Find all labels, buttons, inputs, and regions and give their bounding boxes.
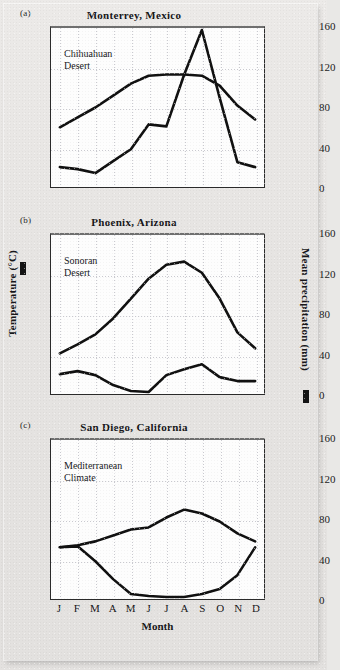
month-label: J	[146, 602, 150, 614]
annotation-c: Mediterranean Climate	[64, 460, 122, 484]
temperature-line-c	[60, 510, 255, 548]
panel-phoenix: (b) Phoenix, Arizona Sonoran Desert 0102…	[0, 215, 327, 420]
y-tick-label-right: 120	[319, 268, 340, 280]
y-tick-label-right: 0	[319, 389, 340, 401]
temperature-legend-marker	[20, 262, 26, 275]
y-tick-label-right: 160	[319, 20, 340, 32]
plot-area-san-diego: Mediterranean Climate 010203040 04080120…	[50, 438, 265, 600]
y-tick-label-right: 120	[319, 473, 340, 485]
panel-title-c: San Diego, California	[0, 421, 268, 433]
month-label: O	[216, 602, 224, 614]
y-tick-label-right: 160	[319, 227, 340, 239]
month-label: A	[109, 602, 117, 614]
month-label: S	[199, 602, 205, 614]
y-tick-label-right: 120	[319, 61, 340, 73]
y-tick-label-right: 40	[319, 142, 340, 154]
y-tick-label-right: 160	[319, 432, 340, 444]
y-tick-label-right: 40	[319, 554, 340, 566]
y-axis-label-temperature: Temperature (°C)	[6, 250, 18, 337]
month-tick-labels: JFMAMJJASOND	[50, 602, 265, 616]
month-label: J	[57, 602, 61, 614]
annotation-a: Chihuahuan Desert	[64, 48, 112, 72]
y-tick-label-right: 80	[319, 101, 340, 113]
y-tick-label-right: 80	[319, 513, 340, 525]
precipitation-line-c	[60, 546, 255, 597]
panel-title-b: Phoenix, Arizona	[0, 216, 268, 228]
month-label: A	[180, 602, 188, 614]
panel-title-a: Monterrey, Mexico	[0, 9, 268, 21]
month-label: N	[234, 602, 242, 614]
annotation-b: Sonoran Desert	[64, 255, 97, 279]
plot-area-phoenix: Sonoran Desert 010203040 04080120160	[50, 233, 265, 395]
y-tick-label-right: 80	[319, 308, 340, 320]
month-label: J	[164, 602, 168, 614]
y-tick-label-right: 0	[319, 182, 340, 194]
plot-area-monterrey: Chihuahuan Desert 010203040 04080120160	[50, 26, 265, 188]
y-axis-label-precipitation: Mean precipitation (mm)	[300, 248, 312, 371]
panel-monterrey: (a) Monterrey, Mexico Chihuahuan Desert …	[0, 8, 327, 213]
precipitation-line-b	[60, 364, 255, 392]
month-label: F	[74, 602, 80, 614]
y-tick-label-right: 40	[319, 349, 340, 361]
month-label: M	[90, 602, 100, 614]
x-axis-title: Month	[50, 620, 265, 632]
month-label: M	[126, 602, 136, 614]
y-tick-label-right: 0	[319, 594, 340, 606]
month-label: D	[252, 602, 260, 614]
precipitation-legend-marker	[303, 390, 309, 403]
